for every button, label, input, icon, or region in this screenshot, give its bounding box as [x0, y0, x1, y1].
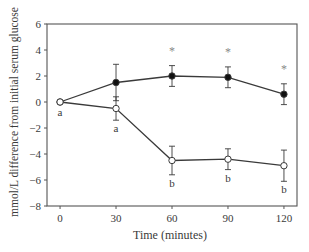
group-letter: a [58, 106, 63, 118]
group-letter: a [114, 122, 119, 134]
y-axis: 6420−2−4−6−8 [29, 18, 47, 212]
x-tick-label: 30 [111, 212, 123, 224]
y-tick-label: 0 [36, 96, 42, 108]
y-tick-label: 2 [36, 70, 42, 82]
y-tick-label: 6 [36, 18, 42, 30]
y-tick-label: −8 [29, 200, 41, 212]
x-tick-label: 60 [167, 212, 179, 224]
filled-circle-marker [113, 79, 119, 85]
open-circle-marker [169, 157, 175, 163]
line-chart: 6420−2−4−6−8 0306090120 ***aabbb Time (m… [0, 0, 309, 252]
y-axis-label: mmol/L difference from initial serum glu… [8, 7, 21, 217]
group-letter: b [225, 172, 231, 184]
significance-star: * [169, 44, 175, 58]
significance-star: * [281, 62, 287, 76]
series-filled: *** [57, 44, 287, 106]
series-open: aabbb [57, 97, 287, 196]
x-axis: 0306090120 [57, 206, 292, 224]
series-layer: ***aabbb [57, 44, 287, 196]
y-tick-label: 4 [36, 44, 42, 56]
y-tick-label: −4 [29, 148, 41, 160]
group-letter: b [169, 177, 175, 189]
open-circle-marker [225, 156, 231, 162]
x-axis-label: Time (minutes) [133, 228, 207, 242]
x-tick-label: 0 [57, 212, 63, 224]
group-letter: b [281, 183, 287, 195]
x-tick-label: 90 [222, 212, 234, 224]
open-circle-marker [57, 99, 63, 105]
y-tick-label: −6 [29, 174, 41, 186]
open-circle-marker [281, 163, 287, 169]
y-tick-label: −2 [29, 122, 41, 134]
filled-circle-marker [281, 91, 287, 97]
open-circle-marker [113, 105, 119, 111]
filled-circle-marker [225, 74, 231, 80]
filled-circle-marker [169, 73, 175, 79]
x-tick-label: 120 [276, 212, 293, 224]
significance-star: * [225, 45, 231, 59]
